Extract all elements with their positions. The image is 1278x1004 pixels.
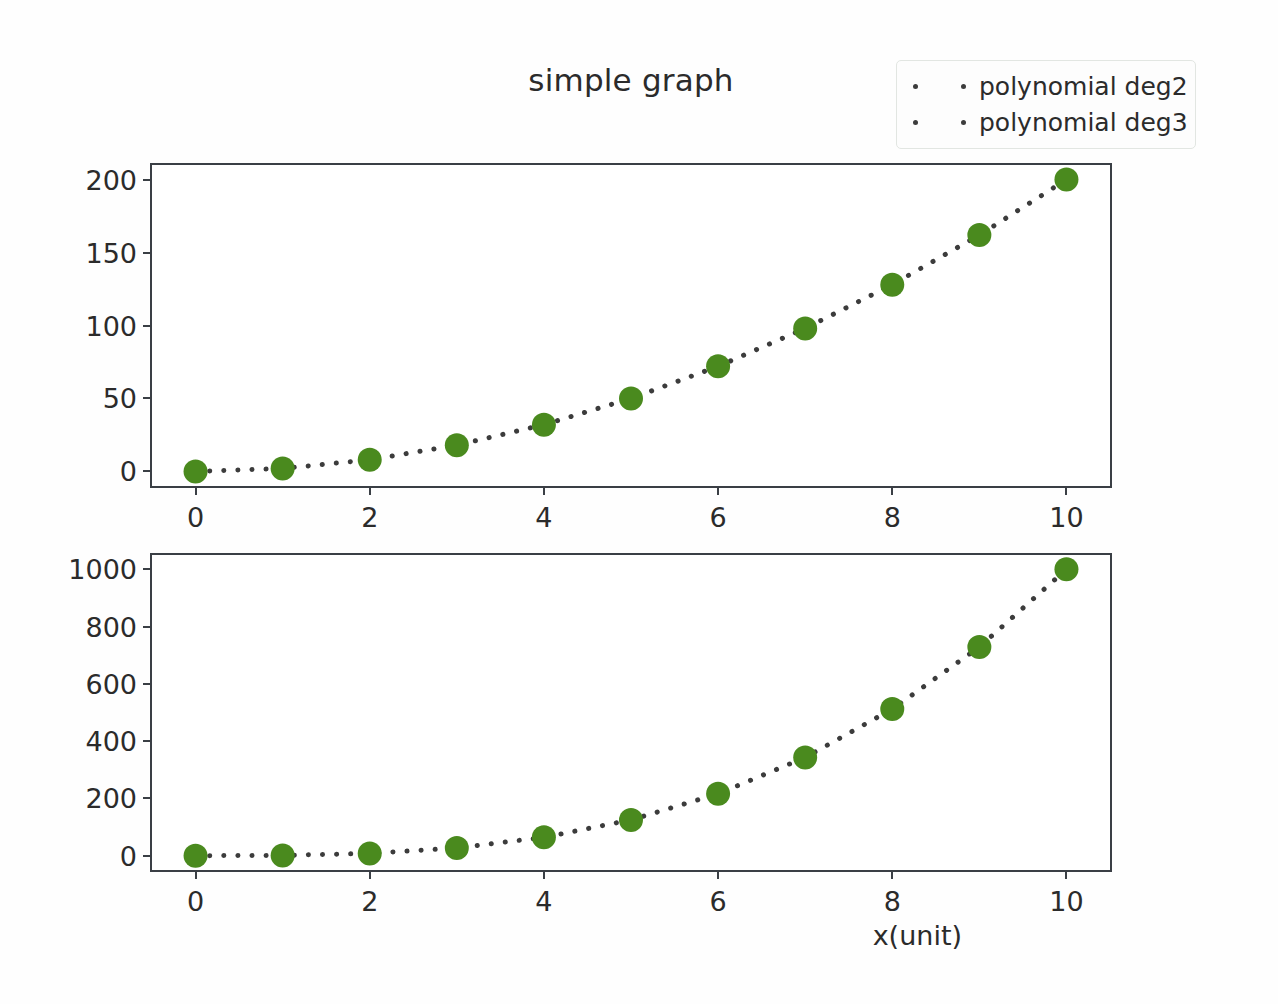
x-tick-mark (717, 870, 719, 879)
x-tick-mark (1065, 486, 1067, 495)
x-tick-mark (369, 486, 371, 495)
data-point-marker (793, 316, 817, 340)
y-tick-label: 800 (85, 611, 137, 642)
x-axis-label: x(unit) (873, 920, 962, 951)
legend-marker-sample-deg2 (911, 73, 973, 99)
plot-area-bottom (152, 555, 1110, 870)
x-tick-mark (369, 870, 371, 879)
x-tick-label: 10 (1049, 502, 1083, 533)
y-tick-mark (143, 740, 152, 742)
y-tick-mark (143, 179, 152, 181)
x-tick-label: 6 (709, 886, 726, 917)
data-point-marker (706, 354, 730, 378)
x-tick-label: 4 (535, 886, 552, 917)
legend-label-deg2: polynomial deg2 (973, 72, 1188, 101)
x-tick-label: 2 (361, 502, 378, 533)
data-point-marker (793, 745, 817, 769)
legend-line-dot-icon (913, 84, 918, 89)
data-point-marker (532, 825, 556, 849)
x-tick-label: 4 (535, 502, 552, 533)
data-point-marker (445, 836, 469, 860)
data-point-marker (184, 844, 208, 868)
legend-label-deg3: polynomial deg3 (973, 108, 1188, 137)
legend-marker-sample-deg3 (911, 109, 973, 135)
data-point-marker (1054, 557, 1078, 581)
data-point-marker (271, 456, 295, 480)
circle-marker-icon (928, 76, 949, 97)
y-tick-label: 400 (85, 726, 137, 757)
y-tick-mark (143, 797, 152, 799)
data-point-marker (532, 413, 556, 437)
data-point-marker (1054, 168, 1078, 192)
y-tick-label: 0 (120, 456, 137, 487)
legend-line-dot-icon (961, 84, 966, 89)
plot-area-top (152, 165, 1110, 486)
data-point-marker (358, 448, 382, 472)
x-tick-mark (543, 486, 545, 495)
x-tick-mark (543, 870, 545, 879)
y-tick-label: 150 (85, 237, 137, 268)
data-point-marker (271, 843, 295, 867)
y-tick-label: 50 (103, 383, 137, 414)
series-line (196, 180, 1067, 472)
x-tick-mark (891, 870, 893, 879)
x-tick-label: 6 (709, 502, 726, 533)
y-tick-label: 100 (85, 310, 137, 341)
y-tick-mark (143, 683, 152, 685)
legend-line-dot-icon (961, 120, 966, 125)
legend-line-dot-icon (913, 120, 918, 125)
data-point-marker (880, 273, 904, 297)
legend: polynomial deg2 polynomial deg3 (896, 60, 1196, 149)
data-point-marker (358, 841, 382, 865)
x-tick-label: 0 (187, 886, 204, 917)
data-point-marker (967, 635, 991, 659)
x-tick-mark (891, 486, 893, 495)
data-point-marker (880, 697, 904, 721)
y-tick-label: 200 (85, 164, 137, 195)
data-point-marker (706, 782, 730, 806)
x-tick-label: 8 (884, 886, 901, 917)
y-tick-label: 1000 (68, 554, 137, 585)
x-tick-label: 0 (187, 502, 204, 533)
y-tick-mark (143, 855, 152, 857)
y-tick-mark (143, 397, 152, 399)
data-point-marker (184, 459, 208, 483)
data-point-marker (619, 808, 643, 832)
y-tick-mark (143, 568, 152, 570)
y-tick-mark (143, 626, 152, 628)
x-tick-label: 8 (884, 502, 901, 533)
y-tick-label: 200 (85, 783, 137, 814)
legend-entry-deg2: polynomial deg2 (911, 68, 1181, 104)
x-tick-mark (717, 486, 719, 495)
y-tick-label: 600 (85, 668, 137, 699)
legend-entry-deg3: polynomial deg3 (911, 104, 1181, 140)
circle-marker-icon (928, 112, 949, 133)
x-tick-mark (1065, 870, 1067, 879)
subplot-bottom-axes: 020040060080010000246810 (150, 553, 1112, 872)
y-tick-mark (143, 252, 152, 254)
data-point-marker (967, 223, 991, 247)
data-point-marker (445, 433, 469, 457)
subplot-top-axes: 0501001502000246810 (150, 163, 1112, 488)
x-tick-mark (195, 870, 197, 879)
x-tick-label: 2 (361, 886, 378, 917)
y-tick-mark (143, 470, 152, 472)
x-tick-label: 10 (1049, 886, 1083, 917)
x-tick-mark (195, 486, 197, 495)
y-tick-label: 0 (120, 840, 137, 871)
matplotlib-figure: simple graph polynomial deg2 polynomial … (0, 0, 1278, 1004)
data-point-marker (619, 386, 643, 410)
y-tick-mark (143, 325, 152, 327)
